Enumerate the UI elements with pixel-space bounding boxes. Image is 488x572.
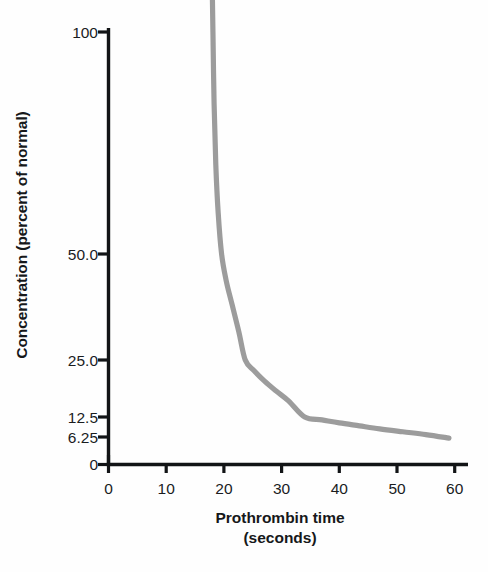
x-tick-label: 20 xyxy=(204,481,244,497)
x-tick-label: 40 xyxy=(319,481,359,497)
x-tick-label: 60 xyxy=(435,481,475,497)
x-axis-tick-labels: 0 10 20 30 40 50 60 xyxy=(0,0,488,572)
x-axis-title: Prothrombin time (seconds) xyxy=(80,508,480,548)
x-tick-label: 0 xyxy=(89,481,129,497)
x-axis-title-line2: (seconds) xyxy=(80,528,480,548)
x-tick-label: 30 xyxy=(262,481,302,497)
x-tick-label: 10 xyxy=(146,481,186,497)
x-tick-label: 50 xyxy=(377,481,417,497)
x-axis-title-line1: Prothrombin time xyxy=(215,509,344,526)
chart-figure: Concentration (percent of normal) 100 50… xyxy=(0,0,488,572)
